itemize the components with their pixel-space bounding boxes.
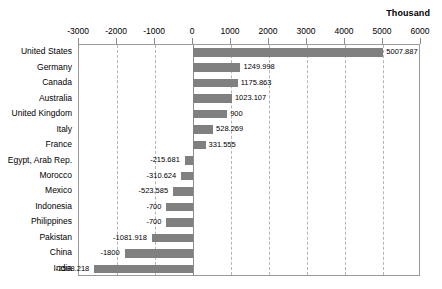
bar-row: 5007.887 <box>79 45 419 60</box>
bar <box>185 156 193 165</box>
bar <box>173 187 193 196</box>
bar-row: 528.269 <box>79 122 419 137</box>
x-tick-label: 1000 <box>221 26 240 36</box>
bar-rows: 5007.8871249.9981175.8631023.107900528.2… <box>79 45 419 275</box>
y-category-label: United States <box>21 46 72 57</box>
y-category-label: Philippines <box>31 216 72 227</box>
bar-value-label: -700 <box>146 216 161 227</box>
bar-row: 900 <box>79 107 419 122</box>
bar-value-label: -1800 <box>100 247 119 258</box>
bar-row: -215.681 <box>79 153 419 168</box>
bar-row: 1175.863 <box>79 76 419 91</box>
bar <box>166 203 193 212</box>
unit-caption: Thousand <box>386 8 430 18</box>
bar-row: -700 <box>79 215 419 230</box>
bar-chart: Thousand -3000-2000-10000100020003000400… <box>0 0 442 289</box>
y-category-label: France <box>46 139 72 150</box>
x-tick-mark <box>420 38 421 44</box>
y-category-label: China <box>50 247 72 258</box>
bar <box>193 125 213 134</box>
y-category-label: Germany <box>37 62 72 73</box>
bar-value-label: 900 <box>230 108 243 119</box>
bar-row: -1800 <box>79 246 419 261</box>
x-tick-label: -3000 <box>67 26 89 36</box>
bar-row: 331.555 <box>79 138 419 153</box>
bar-value-label: 1175.863 <box>241 77 272 88</box>
bar <box>193 94 232 103</box>
bar-row: -1081.918 <box>79 231 419 246</box>
x-tick-label: -2000 <box>105 26 127 36</box>
y-category-label: Pakistan <box>39 232 72 243</box>
plot-area: 5007.8871249.9981175.8631023.107900528.2… <box>78 44 420 276</box>
bar-value-label: -215.681 <box>150 154 180 165</box>
bar <box>193 141 206 150</box>
x-tick-label: 0 <box>190 26 195 36</box>
bar-row: -700 <box>79 200 419 215</box>
bar <box>193 63 240 72</box>
bar-row: -523.585 <box>79 184 419 199</box>
bar-value-label: -310.624 <box>147 170 177 181</box>
bar-value-label: 1249.998 <box>243 61 274 72</box>
x-tick-label: 2000 <box>259 26 278 36</box>
bar <box>166 218 193 227</box>
bar-value-label: -2598.218 <box>56 263 90 274</box>
y-category-label: Australia <box>39 93 72 104</box>
y-category-label: Mexico <box>45 185 72 196</box>
bar-row: 1023.107 <box>79 91 419 106</box>
y-axis-category-labels: United StatesGermanyCanadaAustraliaUnite… <box>0 44 76 276</box>
bar <box>94 265 193 274</box>
bar <box>193 110 227 119</box>
y-category-label: United Kingdom <box>12 108 72 119</box>
bar <box>193 79 238 88</box>
bar-row: 1249.998 <box>79 60 419 75</box>
bar-value-label: -1081.918 <box>113 232 147 243</box>
y-category-label: Italy <box>56 124 72 135</box>
bar <box>125 249 193 258</box>
x-tick-label: -1000 <box>143 26 165 36</box>
x-tick-label: 6000 <box>411 26 430 36</box>
bar-value-label: 331.555 <box>209 139 236 150</box>
x-tick-label: 4000 <box>335 26 354 36</box>
bar-row: -310.624 <box>79 169 419 184</box>
bar-value-label: -700 <box>146 201 161 212</box>
bar-value-label: 1023.107 <box>235 92 266 103</box>
y-category-label: Morocco <box>39 170 72 181</box>
bar <box>181 172 193 181</box>
bar <box>152 234 193 243</box>
x-tick-label: 5000 <box>373 26 392 36</box>
bar <box>193 48 383 57</box>
x-axis-tick-labels: -3000-2000-10000100020003000400050006000 <box>0 26 442 38</box>
x-tick-label: 3000 <box>297 26 316 36</box>
y-category-label: Canada <box>42 77 72 88</box>
y-category-label: Egypt, Arab Rep. <box>8 155 72 166</box>
bar-value-label: 528.269 <box>216 123 243 134</box>
bar-value-label: 5007.887 <box>386 46 417 57</box>
bar-value-label: -523.585 <box>139 185 169 196</box>
bar-row: -2598.218 <box>79 262 419 277</box>
y-category-label: Indonesia <box>35 201 72 212</box>
